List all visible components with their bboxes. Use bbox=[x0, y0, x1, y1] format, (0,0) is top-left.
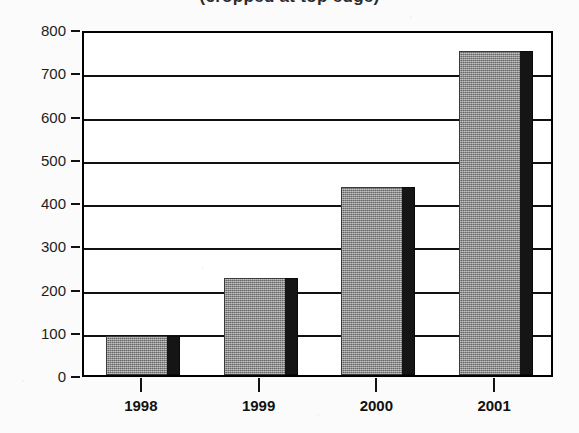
chart-screenshot: (cropped at top edge) 010020030040050060… bbox=[0, 0, 579, 433]
y-tick-500 bbox=[71, 160, 80, 162]
y-axis-label-700: 700 bbox=[10, 66, 66, 81]
bar-face-2001 bbox=[459, 51, 521, 375]
y-axis-label-400: 400 bbox=[10, 196, 66, 211]
x-tick-2000 bbox=[375, 378, 377, 392]
bar-face-1999 bbox=[224, 278, 286, 375]
bar-face-2000 bbox=[341, 187, 403, 375]
x-tick-2001 bbox=[493, 378, 495, 392]
y-axis-label-300: 300 bbox=[10, 239, 66, 254]
y-tick-400 bbox=[71, 203, 80, 205]
y-axis-label-800: 800 bbox=[10, 23, 66, 38]
y-axis-label-600: 600 bbox=[10, 110, 66, 125]
x-axis-label-2000: 2000 bbox=[331, 398, 421, 413]
y-tick-0 bbox=[71, 376, 80, 378]
y-axis-label-100: 100 bbox=[10, 326, 66, 341]
x-axis-label-2001: 2001 bbox=[449, 398, 539, 413]
y-axis-label-200: 200 bbox=[10, 283, 66, 298]
y-axis-label-0: 0 bbox=[10, 369, 66, 384]
bar-shadow-2001 bbox=[520, 51, 533, 375]
x-axis-label-1999: 1999 bbox=[214, 398, 304, 413]
bar-2000 bbox=[341, 187, 415, 375]
y-tick-600 bbox=[71, 117, 80, 119]
bar-1998 bbox=[106, 336, 180, 375]
bar-1999 bbox=[224, 278, 298, 375]
bar-face-1998 bbox=[106, 336, 168, 375]
chart-title-text: (cropped at top edge) bbox=[0, 0, 579, 7]
bar-shadow-1998 bbox=[167, 336, 180, 375]
y-tick-200 bbox=[71, 290, 80, 292]
y-tick-300 bbox=[71, 246, 80, 248]
bar-2001 bbox=[459, 51, 533, 375]
chart-title-cropped: (cropped at top edge) bbox=[0, 0, 579, 9]
y-tick-700 bbox=[71, 73, 80, 75]
y-tick-100 bbox=[71, 333, 80, 335]
plot-area bbox=[82, 31, 553, 377]
x-tick-1999 bbox=[258, 378, 260, 392]
bar-shadow-1999 bbox=[285, 278, 298, 375]
bar-shadow-2000 bbox=[402, 187, 415, 375]
y-tick-800 bbox=[71, 30, 80, 32]
x-axis-label-1998: 1998 bbox=[96, 398, 186, 413]
x-tick-1998 bbox=[140, 378, 142, 392]
y-axis-label-500: 500 bbox=[10, 153, 66, 168]
